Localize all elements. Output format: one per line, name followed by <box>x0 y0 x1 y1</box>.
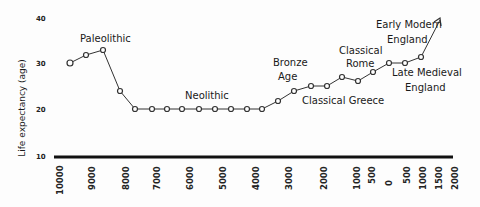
data-point <box>356 79 361 84</box>
annotation-bronze-age-line2: Age <box>278 71 297 82</box>
annotation-early-modern-line2: England <box>387 34 428 45</box>
x-tick: 1500 <box>434 166 444 190</box>
x-axis-ticks: 10000 9000 8000 7000 6000 5000 4000 3000… <box>55 165 460 195</box>
data-point <box>133 107 138 112</box>
annotation-classical-rome-line1: Classical <box>339 45 383 56</box>
y-axis-ticks: 40 30 20 10 <box>36 15 46 161</box>
annotation-late-medieval-line2: England <box>405 82 446 93</box>
data-point <box>165 107 170 112</box>
x-tick: 0 <box>384 180 394 186</box>
data-point <box>292 89 297 94</box>
y-tick-10: 10 <box>36 153 46 161</box>
data-point <box>260 107 265 112</box>
x-tick: 10000 <box>55 165 65 195</box>
data-point <box>101 48 106 53</box>
data-point <box>340 75 345 80</box>
annotation-classical-rome-line2: Rome <box>346 58 375 69</box>
data-point <box>84 53 89 58</box>
x-tick: 3000 <box>284 166 294 190</box>
annotation-late-medieval-line1: Late Medieval <box>392 67 462 78</box>
life-expectancy-chart: Life expectancy (age) 40 30 20 10 10000 … <box>0 0 480 207</box>
data-point <box>150 107 155 112</box>
x-tick: 500 <box>367 166 377 184</box>
x-tick: 1000 <box>418 166 428 190</box>
x-tick: 2000 <box>450 166 460 190</box>
data-point <box>118 89 123 94</box>
data-point <box>387 61 392 66</box>
x-tick: 4000 <box>251 166 261 190</box>
annotation-early-modern-line1: Early Modern <box>376 19 442 30</box>
data-point <box>309 84 314 89</box>
x-tick: 5000 <box>218 166 228 190</box>
x-tick: 1000 <box>352 166 362 190</box>
annotation-neolithic: Neolithic <box>185 90 229 101</box>
annotation-bronze-age-line1: Bronze <box>273 57 308 68</box>
data-point <box>229 107 234 112</box>
data-point <box>213 107 218 112</box>
data-point <box>403 61 408 66</box>
data-point <box>419 55 424 60</box>
data-point <box>180 107 185 112</box>
x-tick: 7000 <box>152 166 162 190</box>
x-tick: 2000 <box>319 166 329 190</box>
data-point <box>245 107 250 112</box>
y-tick-40: 40 <box>36 15 46 23</box>
x-tick: 500 <box>402 166 412 184</box>
y-axis-label: Life expectancy (age) <box>17 59 27 157</box>
data-series <box>70 18 441 109</box>
annotation-paleolithic: Paleolithic <box>80 33 131 44</box>
data-point <box>197 107 202 112</box>
x-tick: 8000 <box>121 166 131 190</box>
data-point <box>67 60 73 66</box>
data-point <box>325 84 330 89</box>
y-tick-20: 20 <box>36 106 46 114</box>
y-tick-30: 30 <box>36 60 46 68</box>
x-tick: 6000 <box>185 166 195 190</box>
data-point <box>371 70 376 75</box>
x-tick: 9000 <box>87 166 97 190</box>
annotation-classical-greece: Classical Greece <box>302 95 384 106</box>
data-point <box>276 99 281 104</box>
